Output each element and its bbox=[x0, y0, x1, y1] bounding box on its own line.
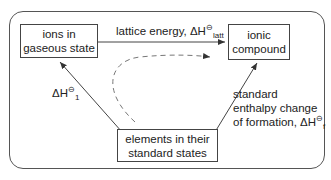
delta-h1-label: ΔH⊖1 bbox=[52, 86, 79, 100]
formation-label: standard enthalpy change of formation, Δ… bbox=[233, 87, 325, 129]
dashed-cycle-arrow bbox=[113, 55, 210, 122]
node-label: standard states bbox=[128, 146, 207, 160]
node-label: gaseous state bbox=[23, 41, 95, 55]
node-label: compound bbox=[232, 42, 286, 56]
node-label: elements in their bbox=[125, 132, 209, 146]
node-elements-standard-states: elements in their standard states bbox=[117, 129, 218, 162]
node-ionic-compound: ionic compound bbox=[228, 24, 290, 60]
node-ions-gaseous: ions in gaseous state bbox=[20, 24, 98, 58]
node-label: ions in bbox=[42, 27, 75, 41]
node-label: ionic bbox=[247, 28, 271, 42]
lattice-energy-label: lattice energy, ΔH⊖latt bbox=[116, 24, 224, 38]
